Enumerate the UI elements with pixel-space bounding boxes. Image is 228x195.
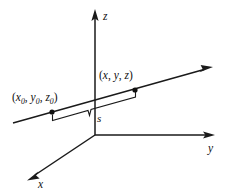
figure-canvas: z y x s (x0, y0, z0) xyxy=(0,0,228,195)
x-axis-label: x xyxy=(37,178,44,190)
initial-point-dot xyxy=(49,109,54,114)
x-axis-group: x xyxy=(27,135,95,190)
arc-length-label: s xyxy=(97,112,101,124)
general-point-dot xyxy=(132,87,137,92)
general-point-label: (x, y, z) xyxy=(99,69,133,82)
initial-point-label: (x0, y0, z0) xyxy=(12,91,58,106)
general-point-close-paren: ) xyxy=(129,69,133,82)
oblique-line-arrowhead xyxy=(200,65,213,72)
initial-point-close-paren: ) xyxy=(54,91,58,104)
y-axis-group: y xyxy=(95,131,215,155)
y-axis-label: y xyxy=(207,142,214,155)
arc-length-brace xyxy=(53,92,136,121)
initial-point-group: (x0, y0, z0) xyxy=(12,91,58,115)
x-axis-line xyxy=(35,135,95,175)
z-axis-label: z xyxy=(102,10,108,22)
diagram-svg: z y x s (x0, y0, z0) xyxy=(0,0,228,195)
